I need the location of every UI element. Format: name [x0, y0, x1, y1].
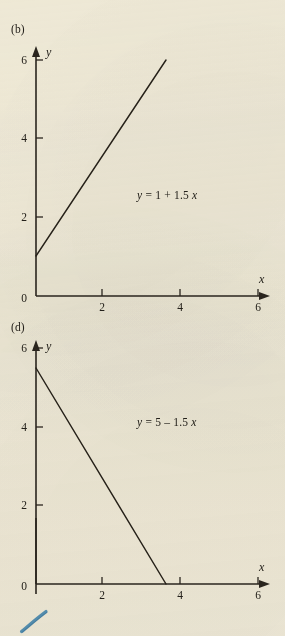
- equation-label-b: y = 1 + 1.5 x: [136, 189, 198, 202]
- x-axis-label-b: x: [258, 272, 265, 286]
- y-tick-label-4-b: 4: [21, 132, 27, 144]
- figure-page: (b) 6 4 2 0 2 4 6 y x: [0, 0, 285, 636]
- equation-x-var-b: x: [191, 189, 198, 201]
- x-tick-label-6-d: 6: [255, 589, 261, 601]
- y-tick-label-2-d: 2: [21, 499, 27, 511]
- y-axis-label-d: y: [45, 339, 52, 353]
- x-axis-arrow-d: [259, 580, 270, 588]
- data-line-d: [36, 368, 166, 584]
- x-tick-label-4-d: 4: [177, 589, 183, 601]
- x-tick-label-2-d: 2: [99, 589, 105, 601]
- equation-body-b: = 1 + 1.5: [142, 189, 192, 201]
- origin-label-d: 0: [21, 580, 27, 592]
- plot-d: 6 4 2 0 2 4 6 y x y = 5 – 1.5 x: [0, 318, 285, 636]
- y-axis-arrow-b: [32, 46, 40, 57]
- equation-label-d: y = 5 – 1.5 x: [136, 416, 197, 429]
- chart-panel-d: (d) 6 4 2 0 2 4 6 y: [0, 318, 285, 636]
- data-line-b: [36, 60, 166, 256]
- chart-panel-b: (b) 6 4 2 0 2 4 6 y x: [0, 0, 285, 318]
- y-tick-label-6-b: 6: [21, 54, 27, 66]
- x-tick-label-2-b: 2: [99, 301, 105, 313]
- y-axis-label-b: y: [45, 45, 52, 59]
- plot-b: 6 4 2 0 2 4 6 y x y = 1 + 1.5 x: [0, 0, 285, 318]
- x-tick-label-4-b: 4: [177, 301, 183, 313]
- x-axis-arrow-b: [259, 292, 270, 300]
- y-tick-label-2-b: 2: [21, 211, 27, 223]
- y-axis-arrow-d: [32, 340, 40, 351]
- equation-x-var-d: x: [190, 416, 197, 428]
- y-tick-label-6-d: 6: [21, 342, 27, 354]
- origin-label-b: 0: [21, 292, 27, 304]
- x-tick-label-6-b: 6: [255, 301, 261, 313]
- equation-body-d: = 5 – 1.5: [142, 416, 191, 428]
- y-tick-label-4-d: 4: [21, 421, 27, 433]
- x-axis-label-d: x: [258, 560, 265, 574]
